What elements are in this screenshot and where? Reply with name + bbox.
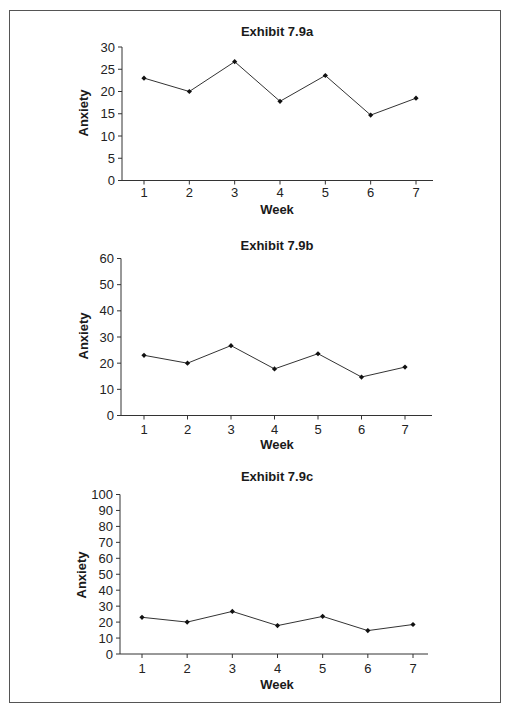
y-tick-label: 0 <box>106 647 113 662</box>
data-point-marker <box>275 623 280 628</box>
y-tick-label: 100 <box>91 487 113 502</box>
y-tick-label: 40 <box>99 583 113 598</box>
x-tick-label: 3 <box>231 185 238 200</box>
x-tick-label: 1 <box>140 422 147 437</box>
data-point-marker <box>320 614 325 619</box>
chart-title: Exhibit 7.9a <box>241 24 314 39</box>
x-tick-label: 5 <box>314 422 321 437</box>
x-tick-label: 4 <box>271 422 278 437</box>
data-series-line <box>144 346 405 377</box>
y-axis-label: Anxiety <box>76 312 91 360</box>
data-point-marker <box>228 343 233 348</box>
data-point-marker <box>315 351 320 356</box>
x-tick-label: 6 <box>364 661 371 676</box>
x-tick-label: 4 <box>276 185 283 200</box>
x-tick-label: 7 <box>412 185 419 200</box>
y-tick-label: 0 <box>108 173 115 188</box>
y-tick-label: 10 <box>99 631 113 646</box>
y-tick-label: 80 <box>99 519 113 534</box>
data-point-marker <box>413 96 418 101</box>
data-point-marker <box>272 366 277 371</box>
y-tick-label: 70 <box>99 535 113 550</box>
data-point-marker <box>185 361 190 366</box>
y-tick-label: 20 <box>99 615 113 630</box>
x-tick-label: 2 <box>184 661 191 676</box>
x-tick-label: 7 <box>401 422 408 437</box>
x-tick-label: 7 <box>409 661 416 676</box>
y-tick-label: 90 <box>99 503 113 518</box>
y-tick-label: 15 <box>101 106 115 121</box>
chart-title: Exhibit 7.9b <box>241 238 314 253</box>
data-point-marker <box>402 364 407 369</box>
data-series-line <box>144 62 416 115</box>
y-tick-label: 10 <box>101 129 115 144</box>
y-tick-label: 20 <box>100 356 114 371</box>
y-tick-label: 5 <box>108 151 115 166</box>
y-tick-label: 50 <box>99 567 113 582</box>
x-tick-label: 6 <box>367 185 374 200</box>
data-point-marker <box>187 89 192 94</box>
y-tick-label: 50 <box>100 277 114 292</box>
x-tick-label: 5 <box>319 661 326 676</box>
x-tick-label: 5 <box>322 185 329 200</box>
x-tick-label: 2 <box>184 422 191 437</box>
chart-title: Exhibit 7.9c <box>241 469 313 484</box>
y-tick-label: 60 <box>100 251 114 266</box>
x-axis-label: Week <box>260 202 294 217</box>
y-axis-label: Anxiety <box>74 551 89 599</box>
y-tick-label: 25 <box>101 62 115 77</box>
y-tick-label: 30 <box>99 599 113 614</box>
y-tick-label: 30 <box>100 330 114 345</box>
y-tick-label: 30 <box>101 40 115 55</box>
data-point-marker <box>230 609 235 614</box>
y-axis-label: Anxiety <box>76 89 91 137</box>
y-tick-label: 60 <box>99 551 113 566</box>
x-tick-label: 1 <box>138 661 145 676</box>
y-tick-label: 10 <box>100 382 114 397</box>
data-point-marker <box>141 76 146 81</box>
x-axis-label: Week <box>260 677 294 692</box>
x-tick-label: 6 <box>358 422 365 437</box>
data-point-marker <box>141 353 146 358</box>
charts-canvas: Exhibit 7.9a0510152025301234567WeekAnxie… <box>0 0 508 712</box>
y-tick-label: 40 <box>100 303 114 318</box>
x-axis-label: Week <box>260 437 294 452</box>
x-tick-label: 2 <box>186 185 193 200</box>
x-tick-label: 4 <box>274 661 281 676</box>
x-tick-label: 3 <box>227 422 234 437</box>
y-tick-label: 20 <box>101 84 115 99</box>
data-point-marker <box>365 628 370 633</box>
data-point-marker <box>359 374 364 379</box>
data-point-marker <box>139 615 144 620</box>
x-tick-label: 3 <box>229 661 236 676</box>
data-point-marker <box>410 622 415 627</box>
data-point-marker <box>185 620 190 625</box>
x-tick-label: 1 <box>140 185 147 200</box>
y-tick-label: 0 <box>107 408 114 423</box>
